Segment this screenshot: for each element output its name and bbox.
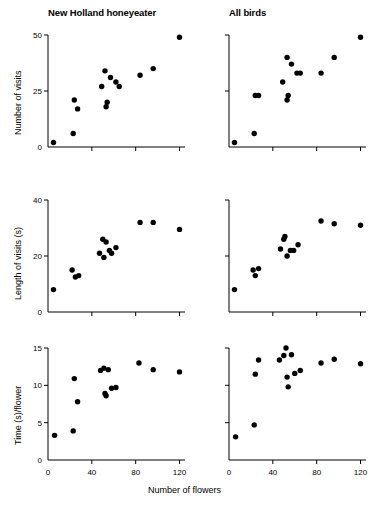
data-point	[284, 374, 289, 379]
data-point	[318, 218, 323, 223]
data-point	[113, 245, 118, 250]
data-point	[358, 361, 363, 366]
data-point	[99, 84, 104, 89]
panel-title-col1: New Holland honeyeater	[48, 7, 156, 18]
data-point	[256, 93, 261, 98]
data-point	[280, 79, 285, 84]
data-point	[285, 384, 290, 389]
data-point	[177, 227, 182, 232]
svg-text:40: 40	[33, 196, 42, 205]
panel-row2-col1: 02040	[22, 195, 187, 335]
svg-text:120: 120	[173, 468, 187, 477]
data-point	[252, 131, 257, 136]
data-point	[332, 55, 337, 60]
panel-row2-col2	[203, 195, 368, 335]
data-point	[71, 131, 76, 136]
data-point	[253, 273, 258, 278]
data-point	[151, 367, 156, 372]
data-point	[108, 75, 113, 80]
panel-row1-col1: 02550	[22, 30, 187, 170]
svg-text:20: 20	[33, 252, 42, 261]
data-point	[177, 369, 182, 374]
data-point	[318, 70, 323, 75]
data-point	[289, 61, 294, 66]
data-point	[51, 287, 56, 292]
svg-text:120: 120	[354, 468, 368, 477]
data-point	[72, 376, 77, 381]
data-point	[75, 399, 80, 404]
svg-text:0: 0	[38, 308, 43, 317]
svg-text:40: 40	[87, 468, 96, 477]
svg-text:5: 5	[38, 419, 43, 428]
data-point	[109, 251, 114, 256]
data-point	[278, 246, 283, 251]
data-point	[72, 97, 77, 102]
data-point	[318, 360, 323, 365]
data-point	[292, 371, 297, 376]
data-point	[52, 433, 57, 438]
data-point	[283, 345, 288, 350]
xlabel-shared: Number of flowers	[148, 485, 221, 495]
data-point	[284, 253, 289, 258]
data-point	[253, 371, 258, 376]
data-point	[103, 239, 108, 244]
svg-text:50: 50	[33, 31, 42, 40]
data-point	[285, 93, 290, 98]
data-point	[71, 428, 76, 433]
figure-container: New Holland honeyeater All birds Number …	[0, 0, 386, 510]
data-point	[256, 266, 261, 271]
panel-row1-col2	[203, 30, 368, 170]
data-point	[104, 100, 109, 105]
data-point	[298, 70, 303, 75]
data-point	[76, 273, 81, 278]
svg-text:80: 80	[131, 468, 140, 477]
data-point	[277, 357, 282, 362]
data-point	[51, 140, 56, 145]
data-point	[136, 360, 141, 365]
data-point	[232, 140, 237, 145]
data-point	[151, 66, 156, 71]
data-point	[291, 248, 296, 253]
svg-text:10: 10	[33, 381, 42, 390]
panel-row3-col1: 05101504080120	[22, 343, 187, 483]
data-point	[289, 352, 294, 357]
data-point	[69, 267, 74, 272]
data-point	[106, 367, 111, 372]
panel-row3-col2: 04080120	[203, 343, 368, 483]
panel-title-col2: All birds	[229, 7, 266, 18]
data-point	[298, 368, 303, 373]
data-point	[113, 79, 118, 84]
data-point	[103, 393, 108, 398]
data-point	[102, 68, 107, 73]
data-point	[358, 223, 363, 228]
data-point	[137, 220, 142, 225]
svg-text:40: 40	[268, 468, 277, 477]
data-point	[75, 106, 80, 111]
svg-text:15: 15	[33, 344, 42, 353]
data-point	[252, 422, 257, 427]
data-point	[113, 385, 118, 390]
svg-text:80: 80	[312, 468, 321, 477]
data-point	[284, 55, 289, 60]
svg-text:0: 0	[227, 468, 232, 477]
data-point	[332, 221, 337, 226]
data-point	[97, 251, 102, 256]
data-point	[232, 287, 237, 292]
data-point	[295, 242, 300, 247]
data-point	[358, 35, 363, 40]
data-point	[103, 104, 108, 109]
svg-text:25: 25	[33, 87, 42, 96]
data-point	[282, 234, 287, 239]
data-point	[101, 255, 106, 260]
data-point	[177, 35, 182, 40]
data-point	[233, 434, 238, 439]
data-point	[151, 220, 156, 225]
svg-text:0: 0	[46, 468, 51, 477]
data-point	[256, 357, 261, 362]
data-point	[284, 97, 289, 102]
data-point	[137, 73, 142, 78]
svg-text:0: 0	[38, 143, 43, 152]
svg-text:0: 0	[38, 456, 43, 465]
data-point	[250, 267, 255, 272]
data-point	[332, 357, 337, 362]
